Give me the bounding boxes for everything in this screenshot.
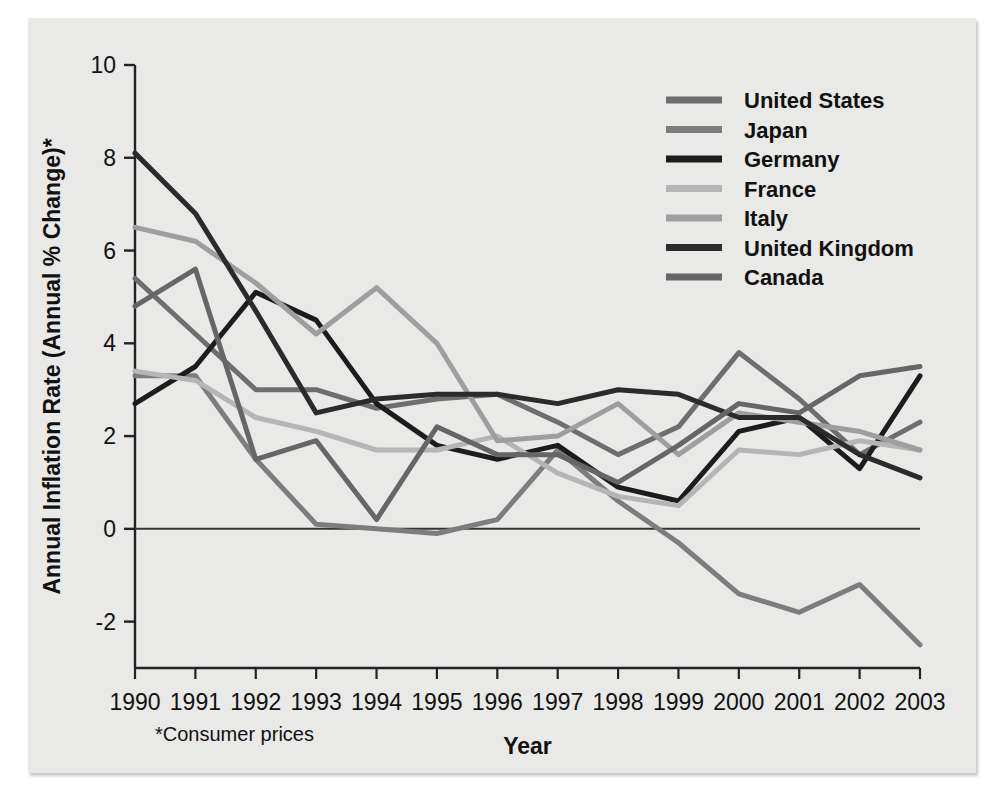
- figure-card: -202468101990199119921993199419951996199…: [28, 18, 976, 773]
- x-tick-label-1990: 1990: [109, 689, 160, 715]
- legend-label-japan: Japan: [744, 118, 808, 143]
- y-tick-label-4: 4: [103, 330, 116, 356]
- y-axis-title: Annual Inflation Rate (Annual % Change)*: [39, 138, 65, 594]
- legend-label-italy: Italy: [744, 206, 789, 231]
- y-tick-label-10: 10: [90, 52, 116, 78]
- y-tick-label-8: 8: [103, 145, 116, 171]
- x-tick-label-1993: 1993: [291, 689, 342, 715]
- x-tick-label-1999: 1999: [653, 689, 704, 715]
- series-line-united-kingdom: [135, 153, 920, 478]
- legend-label-canada: Canada: [744, 265, 824, 290]
- x-tick-label-1992: 1992: [230, 689, 281, 715]
- x-tick-label-1995: 1995: [411, 689, 462, 715]
- x-tick-label-2002: 2002: [834, 689, 885, 715]
- y-tick-label-2: 2: [103, 423, 116, 449]
- y-tick-label--2: -2: [96, 609, 116, 635]
- legend-label-united-kingdom: United Kingdom: [744, 236, 914, 261]
- legend-label-united-states: United States: [744, 88, 885, 113]
- y-tick-label-6: 6: [103, 238, 116, 264]
- x-tick-label-2001: 2001: [774, 689, 825, 715]
- x-axis-title: Year: [503, 733, 552, 759]
- x-tick-label-2003: 2003: [894, 689, 945, 715]
- x-tick-label-1998: 1998: [592, 689, 643, 715]
- x-tick-label-2000: 2000: [713, 689, 764, 715]
- footnote-consumer-prices: *Consumer prices: [155, 723, 314, 745]
- inflation-line-chart: -202468101990199119921993199419951996199…: [28, 18, 976, 773]
- legend-label-germany: Germany: [744, 147, 840, 172]
- x-tick-label-1994: 1994: [351, 689, 402, 715]
- x-tick-label-1991: 1991: [170, 689, 221, 715]
- y-tick-label-0: 0: [103, 516, 116, 542]
- x-tick-label-1996: 1996: [472, 689, 523, 715]
- x-tick-label-1997: 1997: [532, 689, 583, 715]
- legend-label-france: France: [744, 177, 816, 202]
